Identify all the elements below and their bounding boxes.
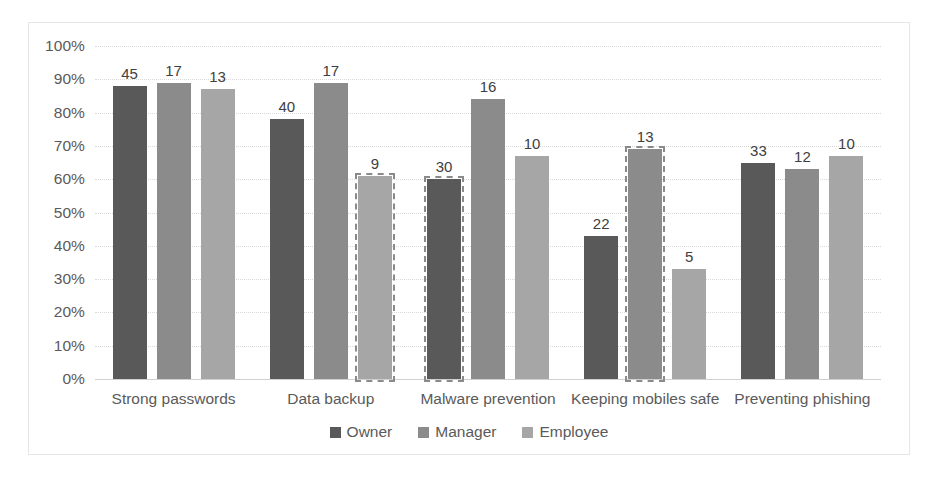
x-axis-category-label: Data backup xyxy=(252,379,409,419)
bar-slot: 16 xyxy=(471,46,505,379)
bar[interactable] xyxy=(314,83,348,379)
bar-data-label: 10 xyxy=(838,135,855,152)
bar-slot: 40 xyxy=(270,46,304,379)
bar-group-bars: 451713 xyxy=(95,46,252,379)
legend-color-swatch xyxy=(330,427,341,438)
bar-data-label: 30 xyxy=(436,158,453,175)
y-axis-tick-label: 70% xyxy=(54,137,85,155)
bar-slot: 13 xyxy=(201,46,235,379)
y-axis-tick-label: 80% xyxy=(54,104,85,122)
bar[interactable] xyxy=(785,169,819,379)
legend-item[interactable]: Employee xyxy=(522,423,608,441)
legend-color-swatch xyxy=(418,427,429,438)
legend-label: Manager xyxy=(435,423,496,441)
chart-legend: OwnerManagerEmployee xyxy=(29,423,909,441)
bar-group: 40179 xyxy=(252,46,409,379)
bar-slot: 13 xyxy=(628,46,662,379)
bar[interactable] xyxy=(471,99,505,379)
bar-slot: 10 xyxy=(829,46,863,379)
bar-slot: 5 xyxy=(672,46,706,379)
x-axis-category-label: Preventing phishing xyxy=(724,379,881,419)
legend-item[interactable]: Owner xyxy=(330,423,393,441)
bar-data-label: 16 xyxy=(480,78,497,95)
x-axis-category-label: Strong passwords xyxy=(95,379,252,419)
bar[interactable] xyxy=(672,269,706,379)
bar-slot: 45 xyxy=(113,46,147,379)
bar[interactable] xyxy=(157,83,191,379)
bar-data-label: 12 xyxy=(794,148,811,165)
y-axis-tick-label: 10% xyxy=(54,337,85,355)
legend-label: Owner xyxy=(347,423,393,441)
y-axis-tick-label: 20% xyxy=(54,303,85,321)
y-axis-tick-label: 60% xyxy=(54,170,85,188)
bar[interactable] xyxy=(270,119,304,379)
bar-slot: 22 xyxy=(584,46,618,379)
bar-slot: 17 xyxy=(314,46,348,379)
bar-group: 451713 xyxy=(95,46,252,379)
bar-group: 22135 xyxy=(567,46,724,379)
x-axis-category-label: Malware prevention xyxy=(409,379,566,419)
bar-data-label: 10 xyxy=(524,135,541,152)
bar-slot: 9 xyxy=(358,46,392,379)
bar-group-bars: 40179 xyxy=(252,46,409,379)
bar-group-bars: 331210 xyxy=(724,46,881,379)
bar-slot: 12 xyxy=(785,46,819,379)
bar[interactable] xyxy=(584,236,618,379)
bar[interactable] xyxy=(358,176,392,379)
bar-data-label: 33 xyxy=(750,142,767,159)
bar[interactable] xyxy=(515,156,549,379)
bar[interactable] xyxy=(427,179,461,379)
bar-data-label: 5 xyxy=(685,248,693,265)
y-axis-tick-label: 90% xyxy=(54,70,85,88)
bar-group: 331210 xyxy=(724,46,881,379)
x-axis-category-label: Keeping mobiles safe xyxy=(567,379,724,419)
bar-data-label: 45 xyxy=(121,65,138,82)
y-axis-tick-label: 30% xyxy=(54,270,85,288)
bar[interactable] xyxy=(741,163,775,379)
bar-slot: 10 xyxy=(515,46,549,379)
y-axis-tick-label: 40% xyxy=(54,237,85,255)
bar[interactable] xyxy=(628,149,662,379)
bar-data-label: 13 xyxy=(637,128,654,145)
bar-data-label: 17 xyxy=(322,62,339,79)
bar-slot: 33 xyxy=(741,46,775,379)
bar-data-label: 40 xyxy=(278,98,295,115)
bar[interactable] xyxy=(201,89,235,379)
legend-label: Employee xyxy=(539,423,608,441)
bar-data-label: 13 xyxy=(209,68,226,85)
x-axis-category-labels: Strong passwordsData backupMalware preve… xyxy=(95,379,881,419)
legend-color-swatch xyxy=(522,427,533,438)
y-axis-tick-label: 100% xyxy=(45,37,85,55)
bar-group-bars: 301610 xyxy=(409,46,566,379)
bar-data-label: 9 xyxy=(371,155,379,172)
y-axis-tick-label: 50% xyxy=(54,204,85,222)
bar-data-label: 22 xyxy=(593,215,610,232)
bar-group: 301610 xyxy=(409,46,566,379)
bar[interactable] xyxy=(113,86,147,379)
plot-area: 100%90%80%70%60%50%40%30%20%10%0% 451713… xyxy=(95,46,881,379)
bar-data-label: 17 xyxy=(165,62,182,79)
bar-groups: 4517134017930161022135331210 xyxy=(95,46,881,379)
y-axis-tick-label: 0% xyxy=(62,370,85,388)
bar[interactable] xyxy=(829,156,863,379)
legend-item[interactable]: Manager xyxy=(418,423,496,441)
bar-slot: 17 xyxy=(157,46,191,379)
chart-frame: 100%90%80%70%60%50%40%30%20%10%0% 451713… xyxy=(28,22,910,455)
bar-group-bars: 22135 xyxy=(567,46,724,379)
bar-slot: 30 xyxy=(427,46,461,379)
